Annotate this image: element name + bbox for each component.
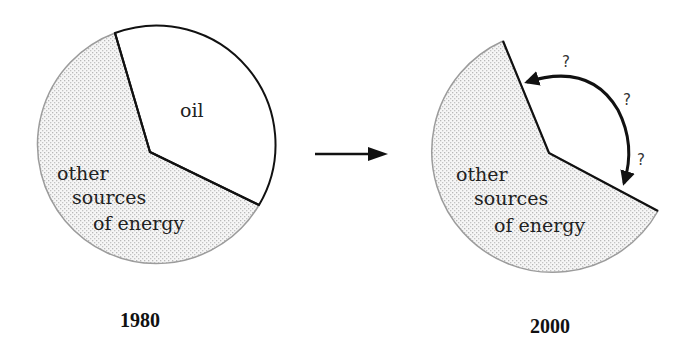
pie-chart-1980: oil other sources of energy (38, 26, 276, 264)
year-label-1980: 1980 (120, 309, 160, 331)
question-mark-2: ? (623, 91, 631, 109)
energy-share-diagram: oil other sources of energy ? ? ? other … (0, 0, 679, 340)
pie-chart-2000: ? ? ? other sources of energy (432, 41, 658, 272)
other-sources-label-line2: sources (474, 187, 548, 209)
other-sources-label-line1: other (456, 163, 509, 185)
other-sources-label-line3: of energy (494, 214, 585, 236)
question-mark-1: ? (562, 53, 570, 71)
other-sources-label-line2: sources (72, 186, 146, 208)
question-mark-3: ? (637, 151, 645, 169)
other-sources-label-line1: other (57, 162, 110, 184)
slice-other-sources-2000 (432, 41, 658, 272)
other-sources-label-line3: of energy (93, 212, 184, 234)
oil-label: oil (180, 99, 204, 121)
right-arrow-icon (315, 147, 388, 161)
year-label-2000: 2000 (530, 315, 570, 337)
